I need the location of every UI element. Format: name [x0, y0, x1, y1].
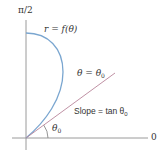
ray-label: θ = θ0 [77, 69, 105, 79]
horizontal-axis-label: 0 [151, 133, 157, 142]
slope-label-subscript: 0 [124, 111, 127, 117]
angle-label-subscript: 0 [57, 127, 61, 134]
slope-label-text: Slope = tan θ [74, 106, 124, 116]
polar-curve [26, 33, 63, 138]
angle-arc [44, 125, 48, 138]
vertical-axis-label: π/2 [18, 6, 33, 15]
curve-label: r = f(θ) [44, 25, 77, 34]
ray-label-text: θ = θ [77, 68, 101, 78]
ray-label-subscript: 0 [101, 72, 105, 79]
slope-label: Slope = tan θ0 [74, 107, 128, 117]
polar-diagram: π/2 0 r = f(θ) θ = θ0 Slope = tan θ0 θ0 [0, 0, 165, 155]
angle-label: θ0 [52, 124, 61, 134]
